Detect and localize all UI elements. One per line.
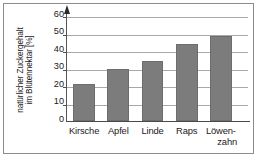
x-axis-line <box>66 121 250 122</box>
x-axis-tick-labels: Kirsche Apfel Linde Raps Löwen- zahn <box>67 125 238 147</box>
bar-loewenzahn <box>210 36 232 121</box>
bar-slot-apfel <box>101 14 135 121</box>
bar-kirsche <box>73 84 95 121</box>
bar-series <box>67 14 238 121</box>
bar-slot-raps <box>170 14 204 121</box>
bar-linde <box>142 61 164 121</box>
y-tick-label-10: 10 <box>42 96 64 106</box>
y-tick-label-0: 0 <box>42 114 64 124</box>
x-tick-label-raps: Raps <box>170 125 204 147</box>
x-tick-label-linde: Linde <box>135 125 169 147</box>
bar-apfel <box>107 69 129 121</box>
y-axis-line <box>66 14 67 122</box>
y-tick-label-40: 40 <box>42 44 64 54</box>
bar-slot-linde <box>135 14 169 121</box>
x-tick-label-loewenzahn-line-2: zahn <box>204 136 238 147</box>
x-tick-label-apfel: Apfel <box>101 125 135 147</box>
x-tick-label-kirsche: Kirsche <box>67 125 101 147</box>
y-axis-arrow-icon <box>64 5 70 14</box>
y-tick-label-30: 30 <box>42 61 64 71</box>
y-axis-title-line-1: natürlicher Zuckergehalt <box>16 27 25 112</box>
x-tick-label-loewenzahn-line-1: Löwen- <box>206 125 236 136</box>
plot-area: 60 50 40 30 20 10 0 <box>42 14 248 152</box>
axes <box>66 14 248 122</box>
y-axis-title-line-2: im Blütennektar [%] <box>25 35 34 104</box>
bar-raps <box>176 44 198 121</box>
y-tick-label-20: 20 <box>42 79 64 89</box>
y-tick-label-60: 60 <box>42 9 64 19</box>
x-tick-label-loewenzahn: Löwen- zahn <box>204 125 238 147</box>
bar-slot-loewenzahn <box>204 14 238 121</box>
y-tick-label-50: 50 <box>42 26 64 36</box>
figure-frame: natürlicher Zuckergehalt im Blütennektar… <box>3 3 254 154</box>
y-axis-title: natürlicher Zuckergehalt im Blütennektar… <box>8 10 42 130</box>
y-axis-tick-labels: 60 50 40 30 20 10 0 <box>42 14 64 122</box>
bar-slot-kirsche <box>67 14 101 121</box>
